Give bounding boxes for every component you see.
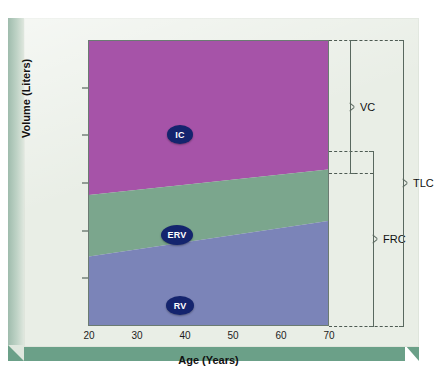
x-tick-label-60: 60	[268, 330, 294, 341]
badge-rv: RV	[166, 296, 194, 315]
plot-area: IC ERV RV	[88, 40, 329, 326]
y-axis-label: Volume (Liters)	[20, 59, 32, 138]
band-rv	[89, 41, 328, 325]
leader-line-top	[329, 40, 403, 41]
bracket-label-tlc: TLC	[413, 177, 434, 189]
badge-erv: ERV	[161, 225, 193, 245]
x-tick-label-40: 40	[172, 330, 198, 341]
leader-line-frc-top	[329, 151, 373, 152]
x-tick-label-70: 70	[316, 330, 342, 341]
bracket-label-vc: VC	[360, 101, 375, 113]
x-axis-label: Age (Years)	[88, 354, 329, 366]
x-tick-label-50: 50	[220, 330, 246, 341]
figure-panel: Volume (Liters) 1 2 3 4 5	[24, 18, 419, 347]
leader-line-bottom	[329, 326, 403, 327]
badge-ic: IC	[167, 125, 193, 144]
x-tick-label-30: 30	[124, 330, 150, 341]
x-tick-label-20: 20	[76, 330, 102, 341]
